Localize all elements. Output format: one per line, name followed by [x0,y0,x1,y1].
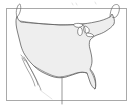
contiguous-us-landmass[interactable] [16,14,114,89]
lake-superior-shape [74,23,83,27]
us-outline-map[interactable] [0,0,134,108]
map-thumbnail[interactable] [0,0,134,108]
lower-coast-faint-line [40,90,52,99]
pacific-northwest-overhang [16,4,21,17]
faint-scan-artifacts [72,2,96,5]
lake-michigan-shape [78,27,83,36]
